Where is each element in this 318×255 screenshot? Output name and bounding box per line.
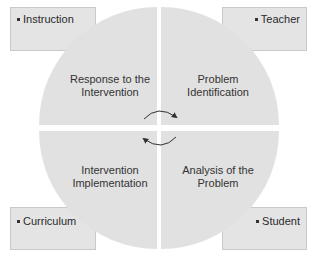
quadrant-label-intervention-implementation: Intervention Implementation [60, 164, 160, 190]
quadrant-label-line: Analysis of the [168, 164, 268, 177]
cycle-circle [0, 0, 318, 255]
quadrant-label-line: Implementation [60, 177, 160, 190]
quadrant-label-problem-identification: Problem Identification [168, 73, 268, 99]
quadrant-bottom-right [161, 131, 279, 249]
quadrant-label-line: Identification [168, 86, 268, 99]
quadrant-top-right [161, 7, 279, 125]
quadrant-bottom-left [39, 131, 157, 249]
quadrant-top-left [39, 7, 157, 125]
quadrant-label-line: Problem [168, 73, 268, 86]
quadrant-label-line: Intervention [60, 86, 160, 99]
quadrant-label-line: Response to the [60, 73, 160, 86]
quadrant-label-line: Intervention [60, 164, 160, 177]
quadrant-label-line: Problem [168, 177, 268, 190]
quadrant-label-response-to-intervention: Response to the Intervention [60, 73, 160, 99]
quadrant-label-analysis-of-problem: Analysis of the Problem [168, 164, 268, 190]
